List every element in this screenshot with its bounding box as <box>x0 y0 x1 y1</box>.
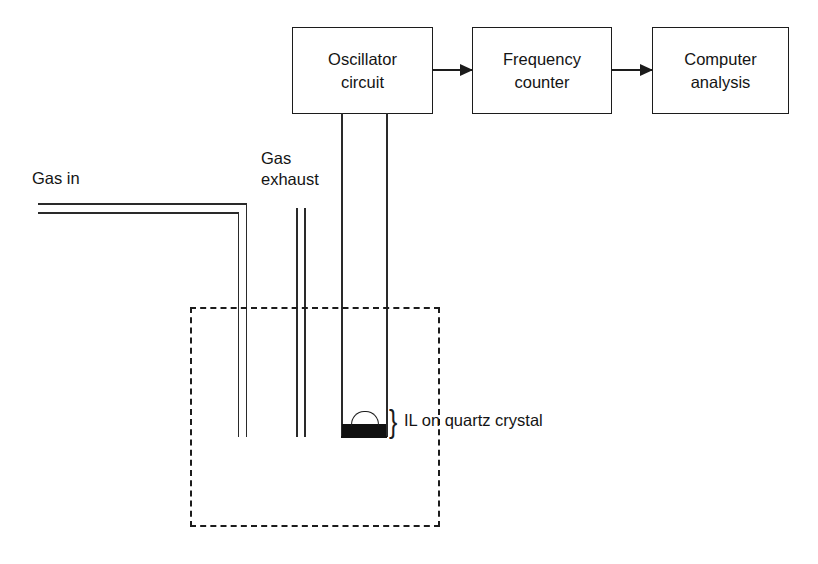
diagram-canvas: Oscillator circuit Frequency counter Com… <box>0 0 818 564</box>
gas-in-pipe-horizontal-outer <box>38 203 247 205</box>
block-computer-analysis: Computer analysis <box>652 27 789 114</box>
block-computer-line1: Computer <box>653 48 788 71</box>
label-gas-in: Gas in <box>32 168 80 189</box>
curly-brace-icon: } <box>389 406 397 437</box>
label-gas-exhaust-line1: Gas <box>261 148 319 169</box>
block-computer-line2: analysis <box>653 71 788 94</box>
crystal-callout-label: IL on quartz crystal <box>404 411 543 431</box>
block-oscillator-line1: Oscillator <box>293 48 432 71</box>
block-frequency-counter: Frequency counter <box>472 27 612 114</box>
quartz-crystal-base-line <box>341 436 387 438</box>
gas-in-pipe-horizontal-inner <box>38 212 238 214</box>
block-counter-line2: counter <box>473 71 611 94</box>
block-oscillator-line2: circuit <box>293 71 432 94</box>
label-gas-exhaust-line2: exhaust <box>261 169 319 190</box>
gas-chamber-dashed-enclosure <box>190 307 440 527</box>
block-counter-line1: Frequency <box>473 48 611 71</box>
arrow-right-icon-counter-to-computer <box>612 69 652 71</box>
arrow-right-icon-oscillator-to-counter <box>433 69 472 71</box>
block-oscillator-circuit: Oscillator circuit <box>292 27 433 114</box>
label-gas-exhaust: Gas exhaust <box>261 148 319 189</box>
